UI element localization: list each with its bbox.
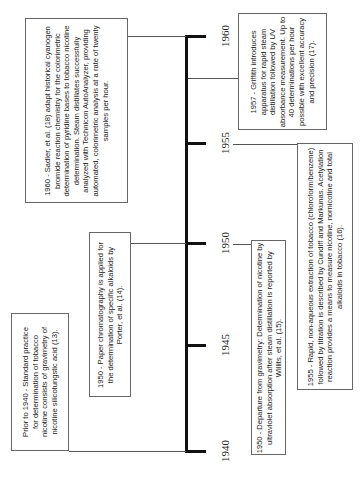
connector-griffith-1957 xyxy=(188,78,238,79)
connector-porter-1950 xyxy=(131,243,186,244)
year-label-1955: 1955 xyxy=(218,128,232,158)
year-label-1940: 1940 xyxy=(218,436,232,466)
event-box-griffith-1957: 1957 - Griffith introduces apparatus for… xyxy=(238,13,327,130)
connector-sadler-1960 xyxy=(128,36,186,37)
event-box-cundiff-1955: 1955 - Rapid, non-aqueous extraction of … xyxy=(297,143,353,390)
connector-cundiff-1955 xyxy=(233,144,297,145)
event-box-sadler-1960: 1960 - Sadler, et al. (18) adapt histori… xyxy=(25,18,128,203)
event-box-porter-1950: 1950 - Paper chromatography is applied f… xyxy=(89,232,131,397)
connector-prior-1940 xyxy=(69,451,186,452)
event-text-cundiff-1955: 1955 - Rapid, non-aqueous extraction of … xyxy=(306,147,344,387)
event-text-prior-1940: Prior to 1940 - Standard practice for de… xyxy=(21,323,59,441)
nicotine-methods-timeline: 1960 1955 1950 1945 1940 1960 - Sadler, … xyxy=(0,0,363,490)
event-box-willits-1950: 1950 - Departure from gravimetry: Determ… xyxy=(251,240,286,455)
year-label-1960: 1960 xyxy=(218,21,232,51)
year-label-1950: 1950 xyxy=(218,228,232,258)
tick-1945 xyxy=(185,344,206,347)
tick-1955 xyxy=(185,142,206,145)
year-label-1945: 1945 xyxy=(218,330,232,360)
event-text-griffith-1957: 1957 - Griffith introduces apparatus for… xyxy=(249,16,316,128)
tick-1960 xyxy=(185,35,206,38)
connector-willits-1950 xyxy=(233,244,251,245)
event-text-willits-1950: 1950 - Departure from gravimetry: Determ… xyxy=(254,242,283,454)
event-box-prior-1940: Prior to 1940 - Standard practice for de… xyxy=(11,313,69,451)
event-text-sadler-1960: 1960 - Sadler, et al. (18) adapt histori… xyxy=(43,22,110,200)
tick-1940 xyxy=(185,450,206,453)
event-text-porter-1950: 1950 - Paper chromatography is applied f… xyxy=(96,236,125,394)
tick-1950 xyxy=(185,242,206,245)
